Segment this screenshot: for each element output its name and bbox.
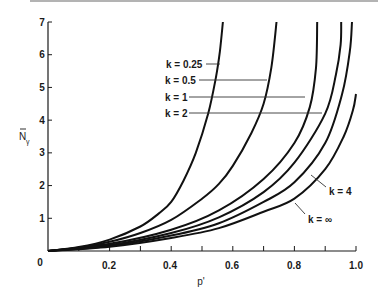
y-tick-label-1: 1: [39, 213, 45, 224]
x-tick-label-0.6: 0.6: [225, 260, 239, 271]
y-tick-label-4: 4: [39, 115, 45, 126]
curve-k0.5: [48, 22, 277, 251]
leader-kinf: [295, 203, 305, 214]
y-tick-label-0: 0: [37, 257, 43, 268]
label-k2: k = 2: [165, 108, 188, 119]
chart: 0 1 2 3 4 5 6 7 0.2 0.4 0.6 0.8 1.0 p' N…: [0, 0, 378, 299]
x-tick-label-0.8: 0.8: [287, 260, 301, 271]
curve-k1: [48, 22, 317, 251]
y-tick-label-7: 7: [39, 17, 45, 28]
label-k1: k = 1: [165, 92, 188, 103]
x-axis-title: p': [197, 276, 205, 287]
x-tick-label-0.2: 0.2: [102, 260, 116, 271]
curve-k4: [48, 22, 352, 251]
x-tick-label-0.4: 0.4: [163, 260, 177, 271]
y-tick-label-5: 5: [39, 82, 45, 93]
x-tick-label-1.0: 1.0: [349, 260, 363, 271]
label-k4: k = 4: [329, 186, 352, 197]
label-k025: k = 0.25: [166, 59, 203, 70]
curve-k0.25: [48, 22, 223, 251]
label-kinf: k = ∞: [308, 214, 332, 225]
y-axis-title: N γ: [19, 129, 30, 146]
y-axis-title-sub: γ: [26, 138, 30, 146]
y-tick-label-6: 6: [39, 49, 45, 60]
y-tick-label-3: 3: [39, 147, 45, 158]
y-tick-label-2: 2: [39, 180, 45, 191]
label-k05: k = 0.5: [165, 75, 196, 86]
